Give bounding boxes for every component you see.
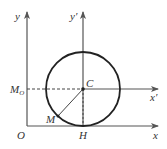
coordinate-diagram: y y′ x′ x O C M H MO bbox=[0, 0, 167, 149]
label-y: y bbox=[14, 10, 20, 22]
label-m0-sub: O bbox=[19, 89, 24, 97]
label-y-prime: y′ bbox=[69, 10, 78, 22]
label-x-prime: x′ bbox=[149, 91, 158, 103]
label-m: M bbox=[45, 113, 56, 125]
label-c: C bbox=[86, 77, 94, 89]
radius-cm bbox=[58, 89, 83, 116]
label-h: H bbox=[78, 129, 88, 141]
point-m bbox=[57, 115, 60, 118]
label-m0: MO bbox=[9, 83, 24, 97]
point-c bbox=[81, 87, 85, 91]
label-origin: O bbox=[17, 129, 25, 141]
label-x: x bbox=[152, 129, 158, 141]
diagram-svg: y y′ x′ x O C M H MO bbox=[0, 0, 167, 149]
